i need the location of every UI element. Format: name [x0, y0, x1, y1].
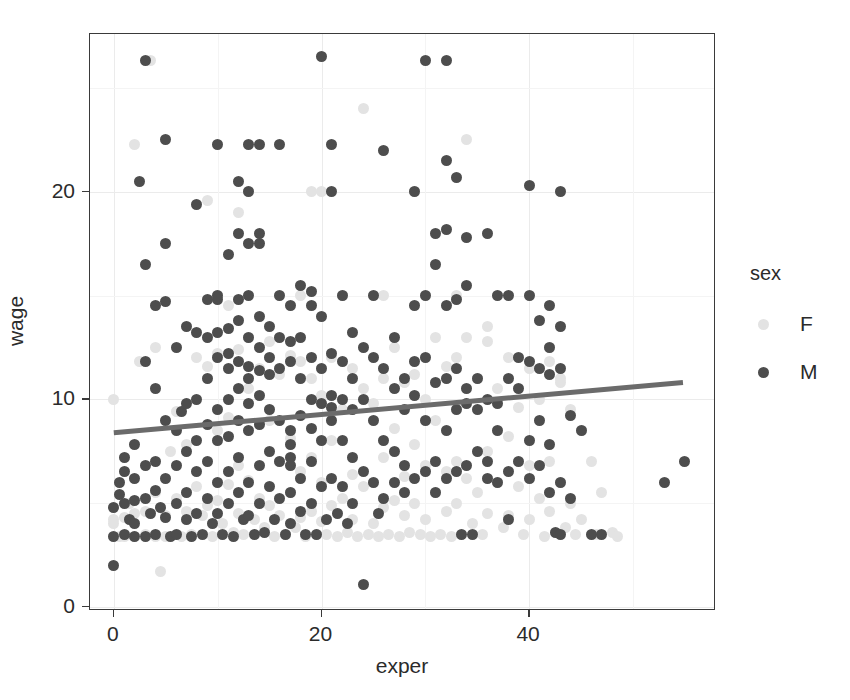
- data-point: [482, 394, 493, 405]
- data-point: [280, 529, 291, 540]
- data-point: [394, 531, 405, 542]
- data-point: [612, 531, 623, 542]
- data-point: [316, 186, 327, 197]
- data-point: [223, 363, 234, 374]
- data-point: [243, 398, 254, 409]
- data-point: [228, 531, 239, 542]
- data-point: [441, 425, 452, 436]
- data-point: [191, 435, 202, 446]
- data-point: [399, 404, 410, 415]
- data-point: [399, 471, 410, 482]
- data-point: [191, 199, 202, 210]
- data-point: [254, 419, 265, 430]
- data-point: [513, 481, 524, 492]
- data-point: [202, 361, 213, 372]
- data-point: [492, 398, 503, 409]
- data-point: [217, 518, 228, 529]
- data-point: [534, 394, 545, 405]
- x-tick-label: 20: [309, 622, 332, 646]
- data-point: [596, 529, 607, 540]
- data-point: [285, 439, 296, 450]
- data-point: [212, 352, 223, 363]
- data-point: [264, 415, 275, 426]
- data-point: [212, 139, 223, 150]
- data-point: [482, 228, 493, 239]
- gridline-gy-major: [90, 192, 714, 193]
- data-point: [140, 460, 151, 471]
- y-tick-label: 10: [52, 386, 75, 410]
- data-point: [461, 398, 472, 409]
- data-point: [129, 473, 140, 484]
- data-point: [492, 477, 503, 488]
- data-point: [223, 431, 234, 442]
- data-point: [482, 456, 493, 467]
- data-point: [285, 487, 296, 498]
- data-point: [108, 560, 119, 571]
- data-point: [368, 477, 379, 488]
- data-point: [451, 498, 462, 509]
- data-point: [482, 321, 493, 332]
- data-point: [544, 439, 555, 450]
- data-point: [337, 481, 348, 492]
- data-point: [461, 473, 472, 484]
- data-point: [212, 477, 223, 488]
- data-point: [389, 342, 400, 353]
- data-point: [409, 369, 420, 380]
- data-point: [409, 186, 420, 197]
- data-point: [150, 383, 161, 394]
- data-point: [420, 352, 431, 363]
- data-point: [233, 487, 244, 498]
- legend-label: M: [800, 360, 818, 384]
- data-point: [451, 466, 462, 477]
- data-point: [326, 435, 337, 446]
- data-point: [441, 224, 452, 235]
- data-point: [368, 352, 379, 363]
- data-point: [254, 228, 265, 239]
- data-point: [332, 531, 343, 542]
- data-point: [233, 344, 244, 355]
- data-point: [212, 327, 223, 338]
- legend-item-f[interactable]: F: [748, 307, 843, 341]
- data-point: [409, 356, 420, 367]
- data-point: [472, 487, 483, 498]
- data-point: [254, 342, 265, 353]
- legend-title: sex: [750, 262, 843, 285]
- data-point: [389, 477, 400, 488]
- data-point: [202, 332, 213, 343]
- data-point: [243, 477, 254, 488]
- data-point: [254, 139, 265, 150]
- data-point: [539, 531, 550, 542]
- data-point: [181, 398, 192, 409]
- x-tick-label: 0: [107, 622, 119, 646]
- data-point: [420, 514, 431, 525]
- data-point: [223, 249, 234, 260]
- data-point: [503, 466, 514, 477]
- data-point: [544, 506, 555, 517]
- y-tick-label: 20: [52, 179, 75, 203]
- data-point: [461, 460, 472, 471]
- data-point: [181, 446, 192, 457]
- data-point: [399, 373, 410, 384]
- data-point: [150, 485, 161, 496]
- data-point: [326, 402, 337, 413]
- data-point: [233, 452, 244, 463]
- data-point: [295, 473, 306, 484]
- data-point: [165, 446, 176, 457]
- data-point: [316, 51, 327, 62]
- data-point: [264, 500, 275, 511]
- data-point: [352, 531, 363, 542]
- legend-key: [748, 367, 778, 378]
- x-tick-mark: [528, 610, 530, 617]
- data-point: [119, 529, 130, 540]
- data-point: [555, 321, 566, 332]
- data-point: [316, 311, 327, 322]
- data-point: [264, 336, 275, 347]
- data-point: [378, 363, 389, 374]
- data-point: [399, 510, 410, 521]
- legend-item-m[interactable]: M: [748, 355, 843, 389]
- data-point: [430, 332, 441, 343]
- data-point: [326, 390, 337, 401]
- data-point: [503, 352, 514, 363]
- gridline-gx-minor: [633, 34, 634, 609]
- legend-key: [748, 319, 778, 330]
